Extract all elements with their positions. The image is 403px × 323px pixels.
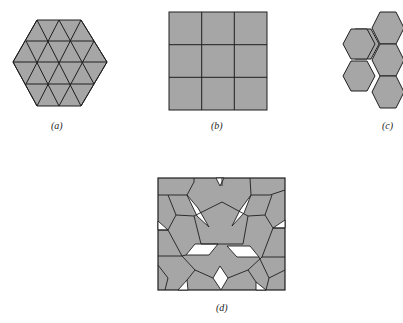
panel-d-pentagon-tiling bbox=[158, 178, 285, 290]
panel-d-label: (d) bbox=[216, 302, 228, 313]
panel-a-label: (a) bbox=[51, 120, 63, 131]
panel-c-label: (c) bbox=[382, 120, 393, 131]
panel-b-square-tiling bbox=[169, 12, 267, 110]
panel-a-triangle-tiling bbox=[13, 20, 107, 106]
tilings-figure bbox=[0, 0, 403, 323]
panel-c-hexagon-tiling bbox=[343, 12, 403, 108]
panel-b-label: (b) bbox=[211, 120, 223, 131]
